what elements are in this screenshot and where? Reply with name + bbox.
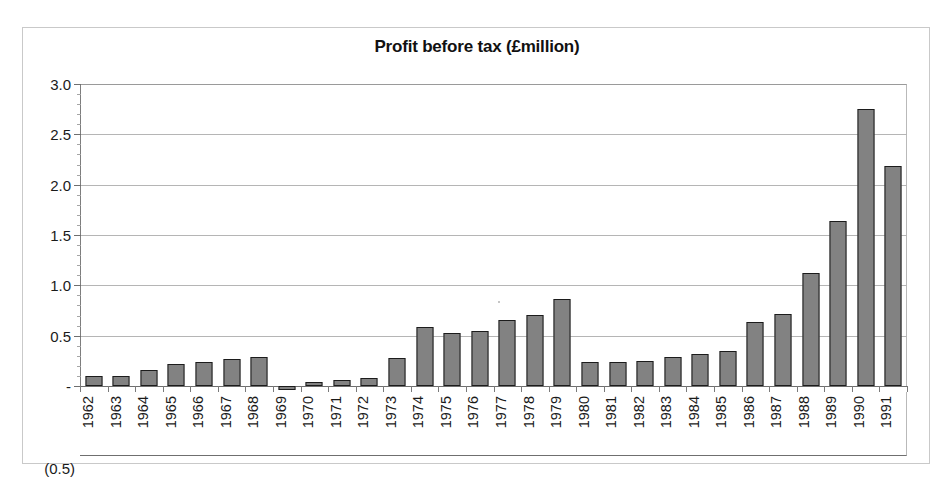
bar-slot — [742, 84, 770, 386]
bar[interactable] — [361, 378, 378, 386]
y-axis-tick-label: - — [66, 378, 71, 395]
bar[interactable] — [664, 357, 681, 386]
x-axis-tick-label: 1962 — [80, 396, 108, 428]
x-axis-tick-label: 1982 — [631, 396, 659, 428]
bar[interactable] — [857, 109, 874, 386]
bar[interactable] — [692, 354, 709, 386]
x-axis-tick-label: 1979 — [548, 396, 576, 428]
x-axis-tick-label: 1977 — [493, 396, 521, 428]
x-axis-tick-label: 1969 — [273, 396, 301, 428]
bar-slot — [494, 84, 522, 386]
bar-slot — [163, 84, 191, 386]
bar[interactable] — [416, 327, 433, 386]
x-axis-tick-label: 1978 — [521, 396, 549, 428]
x-axis-tick-label: 1967 — [218, 396, 246, 428]
bar[interactable] — [251, 357, 268, 386]
bar[interactable] — [471, 331, 488, 386]
x-axis-tick-label: 1973 — [383, 396, 411, 428]
bar[interactable] — [113, 376, 130, 386]
bar-series — [80, 84, 907, 386]
speck — [498, 301, 500, 303]
bar-slot — [301, 84, 329, 386]
bar[interactable] — [499, 320, 516, 386]
bar-slot — [245, 84, 273, 386]
bar[interactable] — [554, 299, 571, 386]
bar-slot — [824, 84, 852, 386]
x-axis-tick-label: 1976 — [465, 396, 493, 428]
x-axis-tick-label: 1985 — [713, 396, 741, 428]
bar[interactable] — [774, 314, 791, 386]
y-axis-tick-label: 3.0 — [50, 76, 71, 93]
bar-slot — [879, 84, 907, 386]
bar[interactable] — [830, 221, 847, 386]
bar-slot — [797, 84, 825, 386]
x-axis-tick-label: 1970 — [300, 396, 328, 428]
bar-slot — [852, 84, 880, 386]
bar[interactable] — [389, 358, 406, 386]
bar-slot — [659, 84, 687, 386]
x-axis-tick-label: 1972 — [355, 396, 383, 428]
x-axis-tick-label: 1980 — [576, 396, 604, 428]
x-axis-tick-label: 1963 — [108, 396, 136, 428]
x-axis-tick-label: 1987 — [768, 396, 796, 428]
y-axis-tick-label: 2.0 — [50, 176, 71, 193]
x-axis-tick-label: 1991 — [878, 396, 906, 428]
bar-slot — [769, 84, 797, 386]
bar[interactable] — [168, 364, 185, 386]
bar-slot — [328, 84, 356, 386]
bar[interactable] — [885, 166, 902, 386]
bar[interactable] — [637, 361, 654, 386]
bar-slot — [714, 84, 742, 386]
bar-slot — [135, 84, 163, 386]
x-axis-tick-label: 1986 — [741, 396, 769, 428]
bar-slot — [466, 84, 494, 386]
y-axis-tick-label: 2.5 — [50, 126, 71, 143]
bar[interactable] — [140, 370, 157, 386]
bar-slot — [273, 84, 301, 386]
x-axis-tick-label: 1988 — [796, 396, 824, 428]
x-axis-tick-label: 1989 — [823, 396, 851, 428]
x-axis: 1962196319641965196619671968196919701971… — [80, 386, 907, 462]
bar[interactable] — [526, 315, 543, 386]
bar-slot — [576, 84, 604, 386]
plot-area: 3.02.52.01.51.00.5- — [80, 84, 907, 386]
bar[interactable] — [581, 362, 598, 386]
x-axis-tick-label: 1983 — [658, 396, 686, 428]
x-axis-tick-label: 1984 — [686, 396, 714, 428]
x-axis-tick-label: 1968 — [245, 396, 273, 428]
y-axis-label-negative: (0.5) — [31, 460, 75, 477]
bar-slot — [356, 84, 384, 386]
x-axis-tick-label: 1990 — [851, 396, 879, 428]
bar-slot — [411, 84, 439, 386]
bar-slot — [521, 84, 549, 386]
bar-slot — [549, 84, 577, 386]
bar[interactable] — [444, 333, 461, 386]
bar-slot — [218, 84, 246, 386]
x-axis-tick-label: 1981 — [603, 396, 631, 428]
bar-slot — [686, 84, 714, 386]
bar[interactable] — [85, 376, 102, 386]
x-axis-tick-label: 1965 — [163, 396, 191, 428]
y-axis-tick-label: 0.5 — [50, 327, 71, 344]
bar-slot — [604, 84, 632, 386]
chart-frame: Profit before tax (£million) 3.02.52.01.… — [22, 27, 930, 464]
x-axis-tick-label: 1971 — [328, 396, 356, 428]
bar[interactable] — [719, 351, 736, 386]
bar[interactable] — [196, 362, 213, 386]
bar-slot — [190, 84, 218, 386]
bar[interactable] — [609, 362, 626, 386]
y-axis-tick-label: 1.5 — [50, 227, 71, 244]
bar-slot — [631, 84, 659, 386]
chart-title: Profit before tax (£million) — [23, 37, 931, 57]
bar-slot — [383, 84, 411, 386]
x-axis-tick-label: 1966 — [190, 396, 218, 428]
y-axis-tick-label: 1.0 — [50, 277, 71, 294]
bar-slot — [80, 84, 108, 386]
bar[interactable] — [223, 359, 240, 386]
bar-slot — [438, 84, 466, 386]
bar[interactable] — [802, 273, 819, 386]
x-axis-tick-label: 1964 — [135, 396, 163, 428]
bar[interactable] — [747, 322, 764, 386]
x-axis-tick-label: 1974 — [410, 396, 438, 428]
bar-slot — [108, 84, 136, 386]
